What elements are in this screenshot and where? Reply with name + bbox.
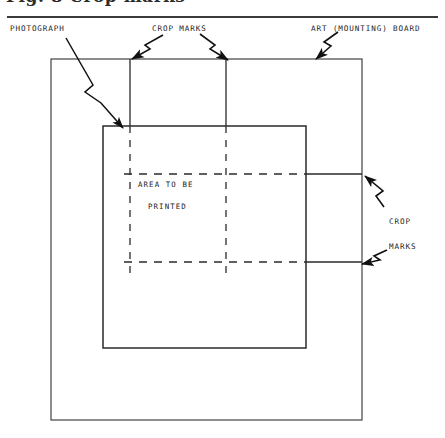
arrow-art-board bbox=[316, 32, 338, 59]
diagram-page: Fig. 8 Crop marks PHOTOGRAPH CROP MARKS … bbox=[0, 0, 445, 438]
arrow-marks-right-lower bbox=[362, 250, 387, 264]
arrow-crop-right-upper bbox=[365, 176, 384, 207]
arrow-photograph bbox=[66, 38, 123, 128]
photograph-rect bbox=[103, 126, 306, 348]
art-mounting-board-rect bbox=[51, 59, 362, 420]
arrow-crop-mark-left bbox=[132, 35, 163, 59]
label-area-to-be: AREA TO BE bbox=[138, 180, 194, 189]
crop-marks-diagram bbox=[0, 0, 445, 438]
arrow-crop-mark-right bbox=[200, 34, 228, 60]
label-crop-right: CROP bbox=[389, 217, 411, 226]
label-printed: PRINTED bbox=[148, 202, 187, 211]
label-marks-right: MARKS bbox=[389, 242, 416, 251]
